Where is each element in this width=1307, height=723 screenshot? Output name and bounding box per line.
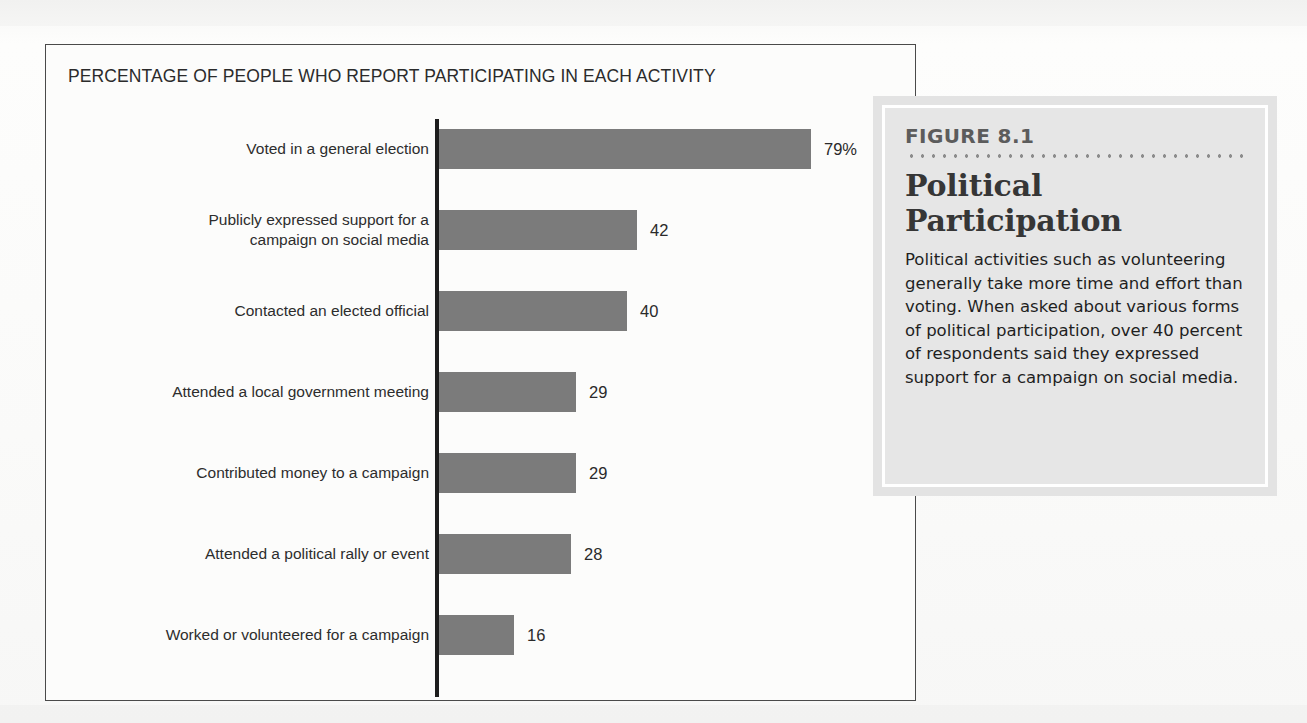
bar-rect [439, 534, 571, 574]
bar-category-label: Voted in a general election [99, 139, 429, 159]
bar-rect [439, 291, 627, 331]
bar-category-label: Publicly expressed support for acampaign… [99, 210, 429, 250]
bar-track: 29 [439, 453, 607, 493]
bar-track: 42 [439, 210, 668, 250]
bar-rect [439, 129, 811, 169]
figure-callout-inner-frame: FIGURE 8.1 Political Participation Polit… [882, 105, 1268, 487]
bar-value-label: 79% [824, 140, 857, 159]
bar-track: 28 [439, 534, 602, 574]
bar-rect [439, 453, 576, 493]
bar-rect [439, 372, 576, 412]
bar-row: Contributed money to a campaign29 [46, 449, 915, 497]
bar-category-label: Worked or volunteered for a campaign [99, 625, 429, 645]
bar-value-label: 29 [589, 383, 607, 402]
bar-value-label: 40 [640, 302, 658, 321]
bar-rect [439, 615, 514, 655]
chart-title: PERCENTAGE OF PEOPLE WHO REPORT PARTICIP… [68, 66, 716, 87]
bar-row: Attended a local government meeting29 [46, 368, 915, 416]
bar-value-label: 42 [650, 221, 668, 240]
figure-number-label: FIGURE 8.1 [905, 124, 1245, 148]
bar-value-label: 28 [584, 545, 602, 564]
bar-track: 40 [439, 291, 658, 331]
bar-chart-plot-area: Voted in a general election79%Publicly e… [46, 111, 915, 699]
figure-callout-box: FIGURE 8.1 Political Participation Polit… [873, 96, 1277, 496]
bar-category-label: Contributed money to a campaign [99, 463, 429, 483]
page-bottom-margin-smudge [0, 705, 1307, 723]
bar-category-label: Attended a local government meeting [99, 382, 429, 402]
bar-category-label: Attended a political rally or event [99, 544, 429, 564]
figure-caption-text: Political activities such as volunteerin… [905, 248, 1245, 389]
figure-title: Political Participation [905, 168, 1245, 238]
bar-row: Publicly expressed support for acampaign… [46, 206, 915, 254]
dotted-divider [905, 151, 1245, 161]
chart-panel: PERCENTAGE OF PEOPLE WHO REPORT PARTICIP… [45, 44, 916, 701]
bar-row: Contacted an elected official40 [46, 287, 915, 335]
figure-page: PERCENTAGE OF PEOPLE WHO REPORT PARTICIP… [0, 0, 1307, 723]
bar-row: Attended a political rally or event28 [46, 530, 915, 578]
bar-value-label: 16 [527, 626, 545, 645]
bar-track: 29 [439, 372, 607, 412]
bar-track: 79% [439, 129, 857, 169]
bar-row: Worked or volunteered for a campaign16 [46, 611, 915, 659]
bar-track: 16 [439, 615, 545, 655]
bar-row: Voted in a general election79% [46, 125, 915, 173]
page-top-margin-smudge [0, 0, 1307, 26]
bar-rect [439, 210, 637, 250]
bar-category-label: Contacted an elected official [99, 301, 429, 321]
figure-callout-content: FIGURE 8.1 Political Participation Polit… [905, 124, 1245, 474]
bar-value-label: 29 [589, 464, 607, 483]
